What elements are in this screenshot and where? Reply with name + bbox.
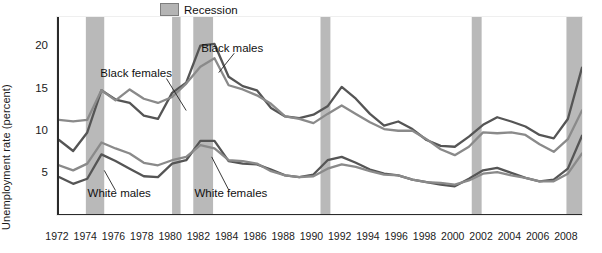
y-axis-title: Unemployment rate (percent)	[0, 50, 12, 230]
legend-label-recession: Recession	[184, 4, 238, 16]
x-tick-label-2008: 2008	[546, 230, 586, 242]
annotation-leader-line	[212, 157, 229, 190]
y-tick-label-10: 10	[22, 124, 48, 136]
recession-swatch-icon	[160, 3, 179, 16]
annotation-label: Black females	[100, 67, 172, 79]
y-tick-label-5: 5	[22, 166, 48, 178]
legend: Recession	[160, 3, 238, 16]
y-tick-label-15: 15	[22, 82, 48, 94]
chart-figure: Unemployment rate (percent) 5101520 1972…	[0, 0, 602, 253]
annotation-label: White females	[194, 187, 267, 199]
recession-band	[172, 17, 180, 215]
recession-band	[472, 17, 482, 215]
y-tick-label-20: 20	[22, 39, 48, 51]
plot-canvas	[59, 17, 582, 215]
annotation-label: Black males	[201, 42, 263, 54]
plot-area	[57, 17, 582, 215]
annotation-label: White males	[88, 187, 151, 199]
